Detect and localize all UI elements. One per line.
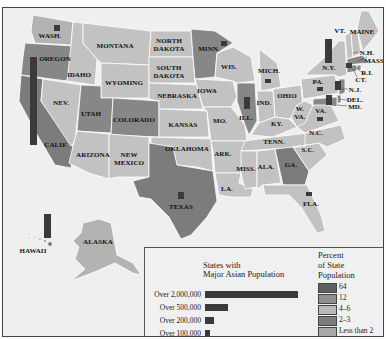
svg-text:VA.: VA. xyxy=(294,113,305,121)
svg-text:ILL.: ILL. xyxy=(239,114,253,122)
svg-text:NEV.: NEV. xyxy=(53,99,69,107)
svg-text:WYOMING: WYOMING xyxy=(105,79,143,87)
bars-legend-title: States with Major Asian Population xyxy=(203,261,284,279)
svg-text:W.: W. xyxy=(296,105,304,113)
swatch-12 xyxy=(318,294,337,304)
svg-text:KY.: KY. xyxy=(271,120,283,128)
swatch-4-6 xyxy=(318,305,337,315)
state-washington[interactable] xyxy=(31,15,73,45)
svg-text:FLA.: FLA. xyxy=(303,200,319,208)
svg-text:MAINE: MAINE xyxy=(350,28,375,36)
svg-text:MASS.: MASS. xyxy=(364,57,383,65)
legend-bar xyxy=(205,291,298,298)
svg-text:CT.: CT. xyxy=(355,76,366,84)
legend-bar xyxy=(205,304,228,311)
svg-text:N.C.: N.C. xyxy=(309,129,323,137)
svg-text:OHIO: OHIO xyxy=(277,92,297,100)
svg-text:NEW: NEW xyxy=(120,151,137,159)
svg-text:ARIZONA: ARIZONA xyxy=(76,151,110,159)
svg-text:UTAH: UTAH xyxy=(81,110,102,118)
svg-text:ALA.: ALA. xyxy=(258,163,275,171)
svg-text:N.Y.: N.Y. xyxy=(322,64,336,72)
legend-bar-row: Over 2,000,000 xyxy=(145,290,384,299)
state-alaska[interactable] xyxy=(71,219,141,281)
svg-text:S.C.: S.C. xyxy=(302,146,315,154)
svg-text:IND.: IND. xyxy=(257,99,272,107)
svg-text:TEXAS: TEXAS xyxy=(169,203,193,211)
svg-text:ARK.: ARK. xyxy=(214,150,232,158)
svg-text:VA.: VA. xyxy=(315,107,326,115)
legend: States with Major Asian Population Perce… xyxy=(144,247,384,337)
svg-text:CALIF.: CALIF. xyxy=(44,141,68,149)
legend-bar xyxy=(205,317,214,324)
svg-text:MEXICO: MEXICO xyxy=(114,159,145,167)
svg-text:ALASKA: ALASKA xyxy=(83,238,113,246)
svg-text:LA.: LA. xyxy=(221,185,233,193)
svg-text:COLORADO: COLORADO xyxy=(113,116,155,124)
svg-text:NEBRASKA: NEBRASKA xyxy=(157,92,197,100)
svg-text:MICH.: MICH. xyxy=(258,67,280,75)
svg-text:N.H.: N.H. xyxy=(360,49,375,57)
svg-text:MISS.: MISS. xyxy=(236,165,256,173)
svg-text:MONTANA: MONTANA xyxy=(96,42,133,50)
svg-text:OREGON: OREGON xyxy=(39,55,71,63)
svg-text:OKLAHOMA: OKLAHOMA xyxy=(165,145,209,153)
svg-text:KANSAS: KANSAS xyxy=(169,121,198,129)
svg-text:N.J.: N.J. xyxy=(349,86,362,94)
percent-legend-title: Percent of State Population xyxy=(318,250,355,280)
svg-text:WASH.: WASH. xyxy=(39,32,62,40)
svg-text:IOWA: IOWA xyxy=(197,87,217,95)
map-frame: WASH. OREGON CALIF. IDAHO NEV. MONTANA W… xyxy=(2,7,384,337)
svg-text:VT.: VT. xyxy=(334,27,345,35)
svg-text:MD.: MD. xyxy=(348,103,362,111)
svg-text:DAKOTA: DAKOTA xyxy=(154,72,185,80)
svg-text:DAKOTA: DAKOTA xyxy=(154,45,185,53)
svg-text:NORTH: NORTH xyxy=(156,37,182,45)
svg-text:TENN.: TENN. xyxy=(263,138,285,146)
svg-text:PA.: PA. xyxy=(313,78,324,86)
svg-text:MINN.: MINN. xyxy=(198,45,220,53)
svg-text:SOUTH: SOUTH xyxy=(156,64,181,72)
swatch-less-than-2 xyxy=(318,327,337,337)
swatch-64 xyxy=(318,283,337,293)
svg-text:HAWAII: HAWAII xyxy=(19,247,46,255)
svg-text:WIS.: WIS. xyxy=(221,63,237,71)
swatch-2-3 xyxy=(318,316,337,326)
svg-text:IDAHO: IDAHO xyxy=(67,71,92,79)
state-florida[interactable] xyxy=(263,185,325,233)
svg-text:GA.: GA. xyxy=(285,161,298,169)
svg-text:MO.: MO. xyxy=(213,117,227,125)
legend-bar xyxy=(205,330,210,337)
